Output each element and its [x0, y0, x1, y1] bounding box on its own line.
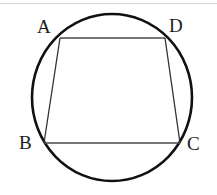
edge-dc: [165, 38, 180, 143]
vertex-label-a: A: [37, 17, 51, 36]
circumscribed-circle: [32, 14, 192, 181]
vertex-label-b: B: [19, 133, 32, 152]
vertex-label-c: C: [187, 134, 200, 153]
geometry-figure: A D B C: [0, 0, 217, 195]
edge-ab: [44, 38, 60, 143]
vertex-label-d: D: [169, 16, 183, 35]
geometry-canvas: [0, 0, 217, 195]
